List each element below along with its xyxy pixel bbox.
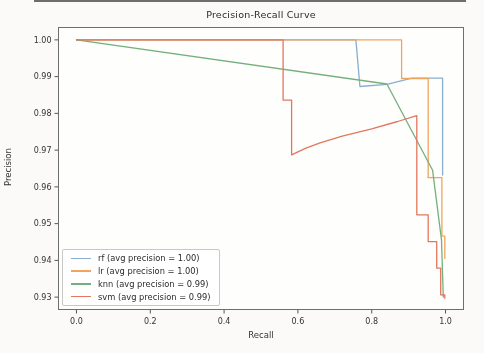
- y-tick-label: 0.93: [34, 293, 52, 302]
- x-tick-label: 0.0: [70, 317, 83, 326]
- legend-label-rf: rf (avg precision = 1.00): [98, 253, 199, 263]
- y-tick-label: 1.00: [34, 36, 52, 45]
- y-tick-label: 0.96: [34, 183, 52, 192]
- legend-label-knn: knn (avg precision = 0.99): [98, 279, 208, 289]
- x-tick-label: 1.0: [439, 317, 452, 326]
- legend-item-knn: knn (avg precision = 0.99): [63, 278, 219, 290]
- y-tick-label: 0.95: [34, 219, 52, 228]
- legend-line-swatch-lr: [71, 270, 91, 272]
- legend-line-swatch-knn: [71, 283, 91, 285]
- x-tick-label: 0.6: [292, 317, 305, 326]
- y-tick-label: 0.99: [34, 72, 52, 81]
- legend-line-swatch-rf: [71, 258, 91, 260]
- legend-line-swatch-svm: [71, 296, 91, 298]
- x-tick-label: 0.8: [365, 317, 378, 326]
- figure: Precision-Recall Curve 0.00.20.40.60.81.…: [0, 0, 484, 353]
- legend-label-lr: lr (avg precision = 1.00): [98, 266, 199, 276]
- legend: rf (avg precision = 1.00)lr (avg precisi…: [62, 249, 220, 306]
- legend-label-svm: svm (avg precision = 0.99): [98, 292, 210, 302]
- y-tick-label: 0.98: [34, 109, 52, 118]
- series-lr-line: [77, 40, 445, 259]
- legend-item-rf: rf (avg precision = 1.00): [63, 252, 219, 264]
- x-tick-label: 0.4: [218, 317, 231, 326]
- x-axis-label: Recall: [58, 330, 464, 340]
- y-tick-label: 0.94: [34, 256, 52, 265]
- legend-item-lr: lr (avg precision = 1.00): [63, 265, 219, 277]
- x-tick-label: 0.2: [144, 317, 157, 326]
- y-tick-label: 0.97: [34, 146, 52, 155]
- legend-item-svm: svm (avg precision = 0.99): [63, 291, 219, 303]
- series-rf-line: [77, 40, 443, 175]
- y-axis-label: Precision: [3, 132, 13, 202]
